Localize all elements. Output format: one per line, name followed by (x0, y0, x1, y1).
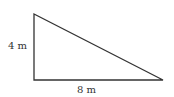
triangle-diagram: 4 m 8 m (0, 0, 174, 97)
height-label: 4 m (8, 40, 28, 51)
right-triangle (34, 14, 163, 80)
base-label: 8 m (77, 84, 97, 95)
